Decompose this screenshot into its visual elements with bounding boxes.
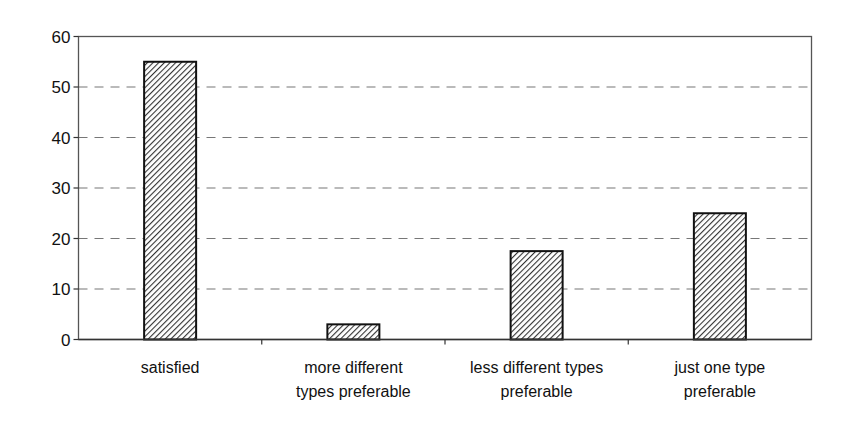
- x-category-label: less different types: [470, 359, 603, 376]
- y-tick-label: 30: [52, 179, 71, 198]
- x-category-label: preferable: [684, 383, 756, 400]
- y-tick-label: 20: [52, 230, 71, 249]
- x-category-label: preferable: [501, 383, 573, 400]
- bar: [511, 251, 563, 339]
- y-tick-label: 50: [52, 78, 71, 97]
- y-axis: 0102030405060: [52, 28, 79, 350]
- x-axis: satisfiedmore differenttypes preferablel…: [79, 340, 812, 401]
- y-tick-label: 40: [52, 129, 71, 148]
- x-category-label: just one type: [674, 359, 766, 376]
- bar-chart: 0102030405060 satisfiedmore differenttyp…: [0, 0, 846, 433]
- bar: [327, 324, 379, 339]
- bar: [694, 213, 746, 339]
- y-tick-label: 10: [52, 280, 71, 299]
- y-tick-label: 60: [52, 28, 71, 47]
- bar: [144, 62, 196, 340]
- y-tick-label: 0: [61, 331, 70, 350]
- x-category-label: types preferable: [296, 383, 411, 400]
- bars: [144, 62, 746, 340]
- x-category-label: more different: [304, 359, 403, 376]
- x-category-label: satisfied: [141, 359, 200, 376]
